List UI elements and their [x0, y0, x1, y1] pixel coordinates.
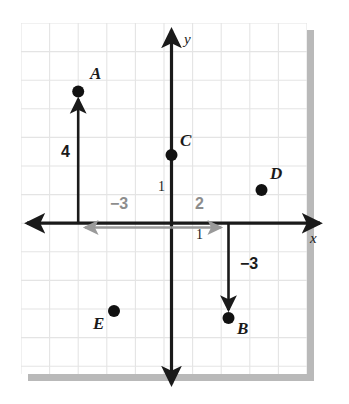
- x-axis-label: x: [310, 231, 317, 246]
- point-e-label: E: [93, 315, 104, 332]
- point-e-dot: [108, 305, 120, 317]
- y-axis-label: y: [184, 32, 191, 47]
- point-c-dot: [166, 149, 178, 161]
- point-a-dot: [72, 86, 84, 98]
- point-d-dot: [256, 184, 268, 196]
- point-a-label: A: [90, 65, 101, 82]
- unit-label-x-axis: 1: [196, 228, 203, 242]
- measure-label-neg3-horizontal: −3: [110, 196, 128, 212]
- coordinate-plane-svg: [0, 0, 349, 404]
- unit-label-y-axis: 1: [158, 180, 165, 194]
- coordinate-plane-figure: A B C D E y x −3 4 2 −3 1 1: [0, 0, 349, 404]
- measure-label-neg3-vertical: −3: [240, 256, 258, 272]
- point-d-label: D: [270, 165, 282, 182]
- point-b-label: B: [237, 320, 248, 337]
- grid-lines: [21, 23, 307, 374]
- measure-label-4-vertical: 4: [61, 144, 70, 160]
- measure-label-2-horizontal: 2: [195, 196, 204, 212]
- point-c-label: C: [180, 132, 191, 149]
- point-b-dot: [223, 312, 235, 324]
